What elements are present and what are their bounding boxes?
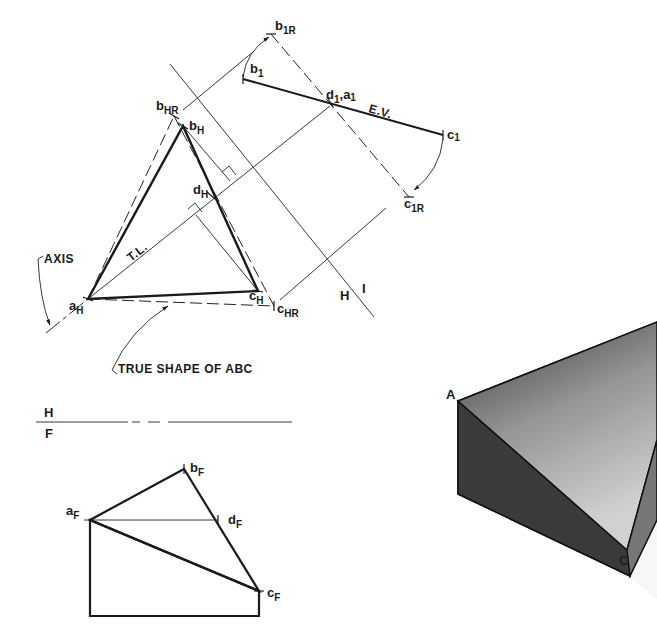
label-b-f: bF [190,460,204,478]
front-point-ticks [184,464,264,591]
front-view: aF bF dF cF [66,460,280,616]
axis-curved-arrow [38,259,50,325]
right-angle-mark-2 [188,203,202,212]
axis-leader [38,256,43,259]
axis-true-length-line [88,106,330,299]
label-b-1r: b1R [275,18,297,36]
auxiliary-view: b1R b1 d1,a1 E.V. c1 c1R H I [243,18,460,303]
projector-c [280,208,386,300]
label-c-1r: c1R [404,196,425,214]
folding-line-hf: H F [36,405,292,441]
label-c-1: c1 [447,127,460,143]
label-edge-view: E.V. [367,101,394,121]
label-true-length: T.L. [124,240,150,265]
true-shape-leader-tail [112,370,117,374]
label-pictorial-c: C [619,553,629,568]
label-d-f: dF [228,512,242,530]
label-axis: AXIS [44,252,74,266]
true-shape-edge-ab [88,116,174,299]
label-b-1: b1 [250,61,264,79]
label-c-hr: cHR [277,301,299,319]
label-b-hr: bHR [156,98,179,116]
label-pictorial-a: A [446,387,456,402]
label-hf-h: H [44,405,53,420]
triangle-abc-front [90,469,259,591]
arc-c-revolution [414,139,443,190]
label-c-f: cF [267,585,280,603]
label-a-f: aF [66,503,79,521]
label-hf-f: F [45,426,53,441]
drawing-canvas: aH bHR bH dH cH cHR T.L. AXIS TRUE SHAPE… [0,0,657,641]
label-a-h: aH [69,298,83,316]
aux-point-ticks [243,34,443,197]
point-ticks [83,113,274,311]
true-shape-edge-bc [174,116,274,306]
perp-c-to-axis [196,215,258,291]
front-outline [90,520,259,616]
label-d-h: dH [193,182,208,200]
pictorial-solid: A C [446,322,657,600]
triangle-abc-horizontal [88,126,258,299]
label-fold-h: H [340,288,349,303]
perp-b-to-axis [183,126,230,181]
label-fold-i: I [362,281,366,296]
true-shape-leader [112,306,168,370]
true-shape-edge-ac [88,299,274,306]
label-b-h: bH [189,118,204,136]
label-true-shape: TRUE SHAPE OF ABC [118,362,253,376]
